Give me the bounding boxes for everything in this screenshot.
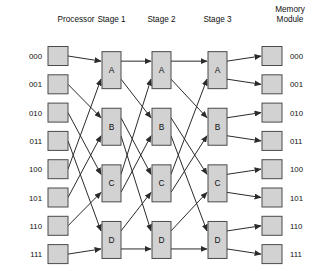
switch-label-stage3-C: C: [214, 178, 220, 188]
switch-label-stage1-B: B: [109, 122, 115, 132]
processor-box-011[interactable]: [48, 131, 68, 150]
header-stage-1: Stage 1: [97, 15, 126, 24]
wire-processor-0-to-stage1-port-0: [68, 56, 101, 61]
wire-processor-5-to-stage1-port-3: [68, 136, 101, 198]
memory-module-column: 000001010011100101110111: [262, 47, 304, 264]
processor-label-000: 000: [29, 52, 43, 61]
switch-label-stage3-D: D: [214, 235, 220, 245]
switch-label-stage3-A: A: [215, 65, 221, 75]
wire-stage2-port-1-to-stage3-port-2: [171, 79, 207, 118]
processor-box-101[interactable]: [48, 188, 68, 207]
wire-stage1-port-1-to-stage2-port-2: [121, 79, 151, 118]
processor-box-000[interactable]: [48, 47, 68, 66]
processor-label-011: 011: [30, 137, 42, 146]
memory-module-box-000[interactable]: [262, 47, 282, 66]
wire-stage3-port-3-to-memory-3: [227, 136, 261, 141]
processor-box-100[interactable]: [48, 160, 68, 179]
memory-module-label-000: 000: [290, 52, 304, 61]
memory-module-label-001: 001: [290, 80, 303, 89]
memory-module-box-101[interactable]: [262, 188, 282, 207]
processor-column: 000001010011100101110111: [29, 47, 68, 264]
processor-label-001: 001: [29, 80, 42, 89]
header-stage-3: Stage 3: [203, 15, 232, 24]
wire-processor-2-to-stage1-port-4: [68, 113, 101, 175]
wire-stage3-port-0-to-memory-0: [227, 56, 261, 61]
header-processor: Processor: [58, 15, 95, 24]
memory-module-label-111: 111: [290, 250, 302, 259]
memory-module-box-110[interactable]: [262, 216, 282, 235]
switch-label-stage2-A: A: [159, 65, 165, 75]
memory-module-box-100[interactable]: [262, 160, 282, 179]
processor-box-111[interactable]: [48, 245, 68, 264]
header-memory-line2: Module: [277, 15, 304, 24]
switch-label-stage3-B: B: [215, 122, 221, 132]
wire-stage3-port-1-to-memory-1: [227, 79, 261, 84]
column-headers: ProcessorStage 1Stage 2Stage 3MemoryModu…: [58, 5, 306, 24]
memory-module-box-011[interactable]: [262, 131, 282, 150]
memory-module-box-001[interactable]: [262, 75, 282, 94]
header-memory-line1: Memory: [275, 5, 305, 14]
processor-box-110[interactable]: [48, 216, 68, 235]
wire-stage3-port-6-to-memory-6: [227, 226, 261, 231]
processor-label-100: 100: [29, 165, 43, 174]
processor-label-110: 110: [30, 222, 43, 231]
wire-processor-4-to-stage1-port-1: [68, 79, 101, 169]
memory-module-label-010: 010: [290, 109, 304, 118]
wire-stage3-port-5-to-memory-5: [227, 192, 261, 197]
switch-label-stage1-A: A: [109, 65, 115, 75]
switch-label-stage2-D: D: [158, 235, 164, 245]
wire-stage2-port-6-to-stage3-port-5: [171, 192, 207, 231]
switch-label-stage2-B: B: [159, 122, 165, 132]
memory-module-label-100: 100: [290, 165, 304, 174]
omega-network-diagram: ProcessorStage 1Stage 2Stage 3MemoryModu…: [0, 0, 327, 271]
wire-processor-1-to-stage1-port-2: [68, 84, 101, 117]
memory-module-label-110: 110: [290, 222, 303, 231]
network-svg: ProcessorStage 1Stage 2Stage 3MemoryModu…: [0, 0, 327, 271]
switch-label-stage1-D: D: [108, 235, 114, 245]
memory-module-label-101: 101: [290, 194, 303, 203]
processor-box-001[interactable]: [48, 75, 68, 94]
wire-stage3-port-4-to-memory-4: [227, 169, 261, 174]
wire-stage1-port-6-to-stage2-port-5: [121, 192, 151, 231]
memory-module-box-111[interactable]: [262, 245, 282, 264]
header-stage-2: Stage 2: [147, 15, 176, 24]
processor-label-101: 101: [29, 194, 42, 203]
wire-stage3-port-2-to-memory-2: [227, 113, 261, 118]
processor-label-010: 010: [29, 109, 43, 118]
switch-columns: ABCDABCDABCD: [102, 52, 227, 259]
memory-module-box-010[interactable]: [262, 103, 282, 122]
wire-processor-7-to-stage1-port-7: [68, 249, 101, 254]
processor-box-010[interactable]: [48, 103, 68, 122]
memory-module-label-011: 011: [290, 137, 302, 146]
switch-label-stage2-C: C: [158, 178, 164, 188]
switch-label-stage1-C: C: [108, 178, 114, 188]
wire-stage3-port-7-to-memory-7: [227, 249, 261, 254]
processor-label-111: 111: [30, 250, 42, 259]
wire-processor-6-to-stage1-port-5: [68, 192, 101, 225]
